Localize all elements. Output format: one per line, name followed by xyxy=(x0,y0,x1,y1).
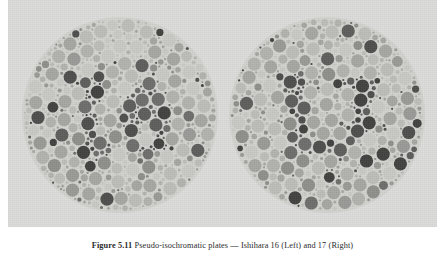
figure-caption-text: Figure 5.11 Pseudo-isochromatic plates —… xyxy=(0,240,445,251)
ishihara-plate-left xyxy=(22,17,218,213)
plate-right-dots xyxy=(229,17,425,213)
ishihara-plate-right xyxy=(229,17,425,213)
figure-number: Figure 5.11 xyxy=(92,241,133,250)
plate-panel xyxy=(8,0,437,227)
figure-caption: Figure 5.11 Pseudo-isochromatic plates —… xyxy=(0,240,445,254)
figure-caption-body: Pseudo-isochromatic plates — Ishihara 16… xyxy=(135,241,354,250)
plate-left-dots xyxy=(22,17,218,213)
figure-container: Figure 5.11 Pseudo-isochromatic plates —… xyxy=(0,0,445,254)
